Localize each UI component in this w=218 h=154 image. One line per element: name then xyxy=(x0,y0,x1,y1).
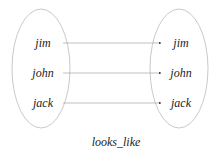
left-item-jim: jim xyxy=(33,36,51,50)
diagram-caption: looks_like xyxy=(92,135,141,149)
right-item-john: john xyxy=(168,66,191,80)
mapping-diagram: jim john jack jim john jack looks_like xyxy=(0,0,218,154)
left-item-john: john xyxy=(30,66,53,80)
right-item-jack: jack xyxy=(169,96,192,110)
right-item-jim: jim xyxy=(171,36,189,50)
left-item-jack: jack xyxy=(31,96,54,110)
